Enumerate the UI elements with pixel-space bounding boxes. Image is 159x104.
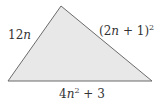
side-label-bottom: 4n2 + 3 <box>59 88 105 100</box>
side-label-right: (2n + 1)2 <box>99 25 154 37</box>
label-right-var: n <box>111 24 119 38</box>
label-left-var: n <box>23 28 31 42</box>
label-bottom-coef: 4 <box>59 87 67 101</box>
triangle-diagram: 12n (2n + 1)2 4n2 + 3 <box>0 0 159 104</box>
label-right-exp: 2 <box>149 23 154 32</box>
label-right-open: (2 <box>99 24 111 38</box>
label-right-close: + 1) <box>119 24 149 38</box>
label-bottom-rest: + 3 <box>79 87 104 101</box>
label-left-coef: 12 <box>8 28 23 42</box>
side-label-left: 12n <box>8 29 31 41</box>
